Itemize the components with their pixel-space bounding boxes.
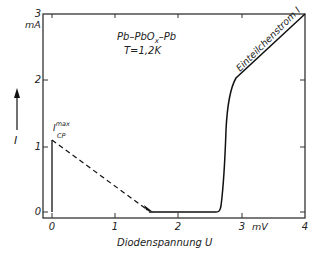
y-tick-2: 2: [27, 75, 41, 85]
iv-characteristic-chart: Einteilchenstrom I 0 1 2 3 mA I 0 1 2 3 …: [0, 0, 321, 254]
x-unit: mV: [252, 222, 268, 232]
temperature-label: T=1,2K: [124, 46, 161, 56]
y-tick-1: 1: [27, 142, 41, 152]
x-axis-label: Diodenspannung U: [117, 238, 212, 248]
y-tick-3: 3: [27, 9, 41, 19]
x-tick-4: 4: [298, 222, 312, 232]
icp-superscript: max: [56, 120, 70, 128]
y-unit: mA: [25, 20, 41, 30]
y-axis-ticks: [43, 80, 305, 212]
icp-subscript: CP: [57, 131, 65, 141]
x-tick-3: 3: [235, 222, 249, 232]
title-part-b: –Pb: [159, 31, 176, 42]
y-tick-0: 0: [27, 207, 41, 217]
chart-title: Pb–PbOx–Pb: [117, 32, 176, 46]
switching-dashed-line: [52, 140, 149, 211]
x-tick-0: 0: [45, 222, 59, 232]
y-axis-arrow-icon: [14, 88, 20, 98]
curve-label: Einteilchenstrom I: [234, 5, 303, 74]
x-tick-2: 2: [171, 222, 185, 232]
icp-max-annotation: Imax CP: [53, 123, 70, 134]
title-part-a: Pb–PbO: [117, 31, 155, 42]
y-axis-symbol: I: [14, 136, 17, 146]
x-tick-1: 1: [108, 222, 122, 232]
